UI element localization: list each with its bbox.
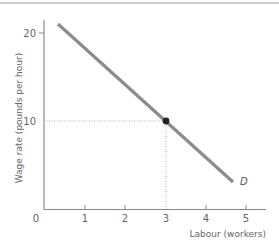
x-ticks: 0 1 2 3 4 5	[33, 205, 249, 224]
y-tick-label-10: 10	[23, 116, 36, 127]
x-axis-label: Labour (workers)	[190, 229, 266, 239]
x-tick-label-4: 4	[203, 213, 209, 224]
guide-lines	[44, 121, 166, 209]
demand-curve	[58, 24, 233, 182]
x-tick-label-0: 0	[33, 213, 39, 224]
y-axis-label: Wage rate (pounds per hour)	[14, 53, 24, 183]
x-tick-label-1: 1	[82, 213, 88, 224]
x-tick-label-5: 5	[243, 213, 249, 224]
x-tick-label-2: 2	[122, 213, 128, 224]
demand-curve-label: D	[240, 176, 248, 187]
y-ticks: 20 10	[23, 28, 44, 127]
demand-chart: 20 10 0 1 2 3 4 5 Labour (workers) Wage …	[0, 0, 279, 247]
equilibrium-point	[163, 118, 170, 125]
x-tick-label-3: 3	[163, 213, 169, 224]
y-tick-label-20: 20	[23, 28, 36, 39]
